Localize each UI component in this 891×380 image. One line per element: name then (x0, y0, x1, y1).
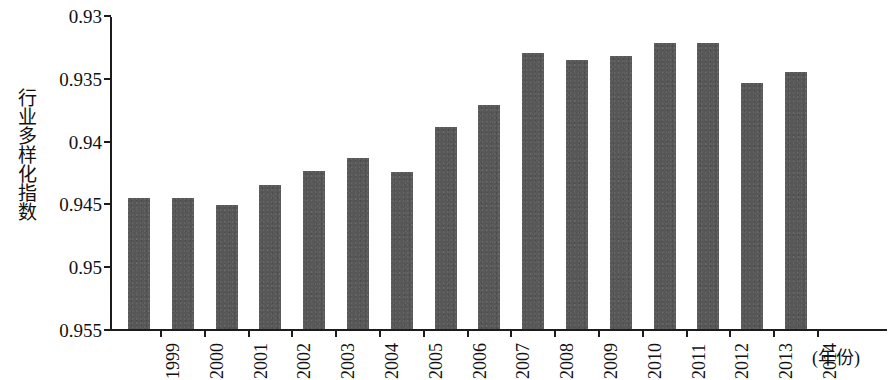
x-axis-tick-label: 2004 (383, 331, 401, 379)
bar-2002 (259, 185, 281, 329)
y-axis-tick-label: 0.935 (36, 70, 102, 89)
y-axis-tick-mark (104, 78, 111, 80)
bar-2012 (697, 43, 719, 329)
bar-2014 (785, 72, 807, 329)
bar-2000 (172, 198, 194, 329)
bar-2005 (391, 172, 413, 329)
x-axis-tick-label: 2011 (690, 331, 708, 379)
bar-2004 (347, 158, 369, 329)
bar-2008 (522, 53, 544, 329)
bar-2010 (610, 56, 632, 329)
x-axis-caption: (年份) (812, 348, 860, 368)
y-axis-tick-label: 0.945 (36, 195, 102, 214)
bar-2011 (654, 43, 676, 329)
y-axis-tick-mark (104, 15, 111, 17)
y-axis-tick-mark (104, 329, 111, 331)
x-axis-tick-label: 2009 (602, 331, 620, 379)
y-axis-tick-label: 0.955 (36, 321, 102, 340)
x-axis-tick-label: 2000 (208, 331, 226, 379)
x-axis-tick-label: 2001 (252, 331, 270, 379)
y-axis-tick-label-group: 0.9550.950.9450.940.9350.93 (36, 0, 102, 380)
x-axis-tick-label: 2012 (733, 331, 751, 379)
bar-2001 (216, 205, 238, 329)
y-axis-line (110, 17, 112, 331)
x-axis-tick-label: 2010 (646, 331, 664, 379)
x-axis-tick-label: 1999 (164, 331, 182, 379)
y-axis-tick-mark (104, 203, 111, 205)
y-axis-tick-label: 0.94 (36, 133, 102, 152)
x-axis-line (110, 329, 887, 331)
x-axis-tick-label: 2005 (427, 331, 445, 379)
y-axis-tick-label: 0.93 (36, 7, 102, 26)
bar-2009 (566, 60, 588, 329)
y-axis-title: 行业多样化指数 (2, 88, 36, 221)
x-axis-tick-label: 2002 (295, 331, 313, 379)
bar-2006 (435, 127, 457, 329)
bar-2013 (741, 83, 763, 329)
bar-1999 (128, 198, 150, 329)
bar-2007 (478, 105, 500, 329)
bar-2003 (303, 171, 325, 329)
x-axis-tick-label: 2008 (558, 331, 576, 379)
x-axis-tick-label-group: 1999200020012002200320042005200620072008… (110, 333, 887, 380)
bar-chart-figure: 行业多样化指数 0.9550.950.9450.940.9350.93 1999… (0, 0, 891, 380)
x-axis-tick-label: 2013 (777, 331, 795, 379)
y-axis-tick-label: 0.95 (36, 258, 102, 277)
y-axis-tick-mark (104, 266, 111, 268)
x-axis-tick-label: 2007 (514, 331, 532, 379)
x-axis-tick-label: 2006 (471, 331, 489, 379)
x-axis-tick-label: 2003 (339, 331, 357, 379)
plot-area (110, 17, 887, 331)
y-axis-tick-mark (104, 141, 111, 143)
